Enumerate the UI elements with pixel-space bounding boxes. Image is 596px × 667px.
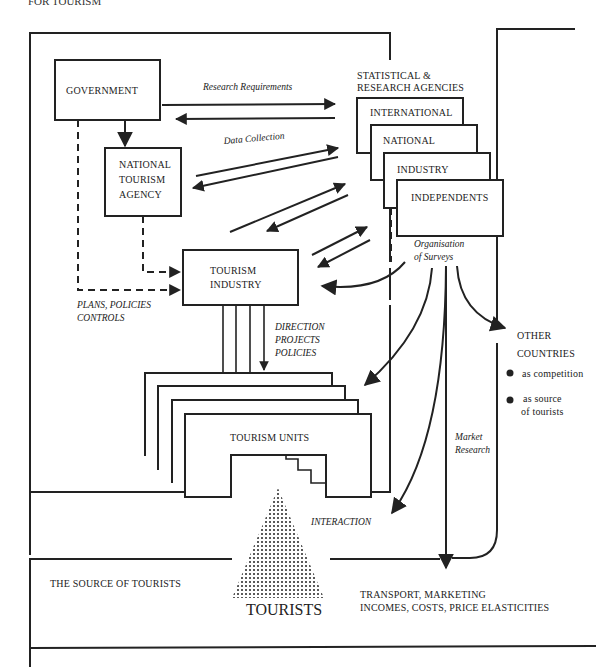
tourism-information-diagram: FOR TOURISM GOVERNMENT NATIONAL TOURISM … (0, 0, 596, 667)
of-tourists-label: of tourists (521, 406, 563, 417)
incomes-costs-label: INCOMES, COSTS, PRICE ELASTICITIES (360, 602, 549, 613)
industry-label-1: TOURISM (210, 265, 256, 276)
nta-controls-dashed-arrow (143, 216, 180, 272)
statistical-agencies-stack: INTERNATIONAL NATIONAL INDUSTRY INDEPEND… (357, 98, 503, 236)
industry-to-agencies-arrow-1 (230, 184, 345, 232)
tourists-label: TOURISTS (246, 601, 322, 618)
agency-industry: INDUSTRY (397, 164, 449, 175)
plans-policies-label: PLANS, POLICIES (76, 300, 151, 310)
tourists-triangle (232, 488, 324, 598)
of-surveys-label: of Surveys (414, 252, 454, 262)
other-countries-frame (452, 29, 575, 558)
nta-label-2: TOURISM (119, 174, 165, 185)
tourism-units-stack: TOURISM UNITS (145, 373, 371, 497)
research-label: Research (454, 445, 490, 455)
source-of-tourists-label: THE SOURCE OF TOURISTS (50, 578, 181, 589)
bullet-icon (507, 397, 514, 404)
agency-national: NATIONAL (383, 135, 435, 146)
surveys-to-industry-arrow (322, 262, 405, 287)
organisation-label: Organisation (414, 239, 465, 249)
industry-to-agencies-arrow-2 (312, 227, 367, 255)
policies-label: POLICIES (274, 348, 316, 358)
transport-marketing-label: TRANSPORT, MARKETING (360, 589, 486, 600)
industry-label-2: INDUSTRY (210, 279, 262, 290)
direction-label: DIRECTION (274, 322, 325, 332)
market-label: Market (454, 432, 483, 442)
surveys-to-interaction-arrow (392, 266, 446, 513)
other-countries-label-1: OTHER (517, 330, 551, 341)
bullet-icon (507, 370, 514, 377)
surveys-to-units-arrow (365, 268, 432, 385)
projects-label: PROJECTS (274, 335, 320, 345)
data-collection-label: Data Collection (222, 131, 285, 146)
interaction-label: INTERACTION (310, 517, 372, 527)
controls-label: CONTROLS (77, 313, 125, 323)
agencies-title-1: STATISTICAL & (357, 70, 431, 81)
tourism-industry-node: TOURISM INDUSTRY (183, 250, 298, 305)
agencies-title-2: RESEARCH AGENCIES (357, 82, 464, 93)
national-tourism-agency-node: NATIONAL TOURISM AGENCY (105, 148, 181, 216)
government-node: GOVERNMENT (55, 60, 160, 120)
gov-to-agencies-arrow (162, 104, 335, 105)
nta-label-3: AGENCY (119, 189, 162, 200)
agency-independents: INDEPENDENTS (411, 192, 488, 203)
as-competition-label: as competition (522, 368, 583, 379)
research-requirements-label: Research Requirements (202, 82, 293, 92)
agencies-to-gov-arrow (176, 118, 335, 119)
figure-heading: FOR TOURISM (28, 0, 101, 7)
government-label: GOVERNMENT (66, 85, 138, 96)
nta-label-1: NATIONAL (119, 159, 171, 170)
agencies-to-industry-arrow-2 (318, 240, 370, 267)
as-source-label: as source (523, 393, 562, 404)
other-countries-label-2: COUNTRIES (517, 348, 575, 359)
tourism-units-label: TOURISM UNITS (230, 432, 309, 443)
agency-international: INTERNATIONAL (370, 107, 453, 118)
